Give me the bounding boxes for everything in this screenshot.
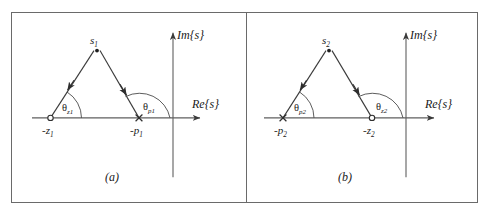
panel-a-caption: (a) bbox=[105, 171, 119, 183]
vector-pole-to-s1-arrowhead bbox=[120, 84, 127, 95]
vector-pole-to-s2-arrowhead bbox=[300, 80, 307, 90]
figure-frame: Im{s} Re{s} s1 -z1 -p1 θz1 θp1 (a) bbox=[11, 12, 478, 203]
apex-label-s1: s1 bbox=[90, 35, 98, 49]
real-axis-label: Re{s} bbox=[192, 98, 219, 110]
zero-label-z1: -z1 bbox=[42, 125, 54, 139]
vector-zero-to-s2-arrowhead bbox=[353, 84, 360, 95]
zero-marker-open-circle bbox=[369, 115, 374, 120]
apex-label-s2: s2 bbox=[322, 35, 330, 49]
pole-label-p2: -p2 bbox=[274, 125, 287, 139]
panel-a-complex-plane: Im{s} Re{s} s1 -z1 -p1 θz1 θp1 (a) bbox=[12, 13, 246, 202]
angle-label-theta-z2: θz2 bbox=[376, 102, 387, 115]
vector-pole-to-s1 bbox=[100, 51, 139, 118]
real-axis-label: Re{s} bbox=[425, 98, 452, 110]
angle-label-theta-p2: θp2 bbox=[294, 103, 306, 116]
pole-label-p1: -p1 bbox=[130, 125, 143, 139]
imag-axis-label: Im{s} bbox=[177, 29, 204, 41]
vector-zero-to-s2 bbox=[332, 51, 372, 118]
angle-label-theta-p1: θp1 bbox=[143, 102, 155, 115]
imag-axis-label: Im{s} bbox=[410, 29, 437, 41]
zero-label-z2: -z2 bbox=[363, 125, 375, 139]
vector-zero-to-s1-arrowhead bbox=[68, 80, 75, 90]
panel-b-caption: (b) bbox=[338, 171, 352, 183]
panel-b-complex-plane: Im{s} Re{s} s2 -p2 -z2 θp2 θz2 (b) bbox=[246, 13, 479, 202]
zero-marker-open-circle bbox=[48, 115, 53, 120]
angle-label-theta-z1: θz1 bbox=[62, 103, 73, 116]
